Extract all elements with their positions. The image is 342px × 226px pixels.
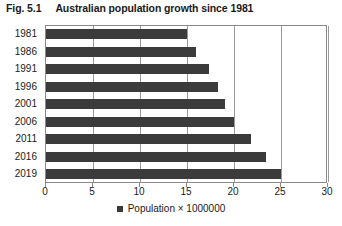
bar [46, 152, 266, 162]
bar-row [46, 131, 326, 149]
bar [46, 64, 209, 74]
bar-row [46, 96, 326, 114]
x-axis-tick-label: 30 [321, 186, 332, 197]
chart-legend: Population × 1000000 [0, 203, 342, 214]
legend-label: Population × 1000000 [128, 203, 226, 214]
bar [46, 134, 251, 144]
y-axis-tick-label: 1996 [15, 78, 37, 96]
gridline [328, 26, 329, 182]
figure-title: Australian population growth since 1981 [55, 2, 253, 14]
bar-row [46, 44, 326, 62]
x-axis-labels: 051015202530 [45, 186, 327, 200]
plot-area [45, 25, 327, 183]
x-axis-tick-label: 20 [227, 186, 238, 197]
y-axis-tick-label: 2006 [15, 113, 37, 131]
x-axis-tick-label: 15 [180, 186, 191, 197]
figure-caption: Fig. 5.1 Australian population growth si… [6, 2, 253, 14]
legend-item: Population × 1000000 [117, 203, 226, 214]
bar [46, 117, 234, 127]
square-marker-icon [117, 206, 123, 212]
y-axis-tick-label: 2011 [15, 130, 37, 148]
bar [46, 29, 187, 39]
figure-container: Fig. 5.1 Australian population growth si… [0, 0, 342, 226]
y-axis-labels: 198119861991199620012006201120162019 [0, 25, 42, 183]
bar-row [46, 61, 326, 79]
y-axis-tick-label: 1991 [15, 60, 37, 78]
bar-row [46, 79, 326, 97]
bar-row [46, 149, 326, 167]
x-axis-tick-label: 0 [42, 186, 48, 197]
x-axis-tick-label: 5 [89, 186, 95, 197]
y-axis-tick-label: 1986 [15, 43, 37, 61]
bar [46, 99, 225, 109]
bar-series [46, 26, 326, 182]
x-axis-tick-label: 10 [133, 186, 144, 197]
bar [46, 169, 281, 179]
bar [46, 47, 196, 57]
y-axis-tick-label: 2001 [15, 95, 37, 113]
bar-row [46, 166, 326, 184]
y-axis-tick-label: 1981 [15, 25, 37, 43]
figure-number: Fig. 5.1 [6, 2, 41, 14]
bar-row [46, 26, 326, 44]
y-axis-tick-label: 2019 [15, 165, 37, 183]
bar [46, 82, 218, 92]
bar-row [46, 114, 326, 132]
y-axis-tick-label: 2016 [15, 148, 37, 166]
x-axis-tick-label: 25 [274, 186, 285, 197]
